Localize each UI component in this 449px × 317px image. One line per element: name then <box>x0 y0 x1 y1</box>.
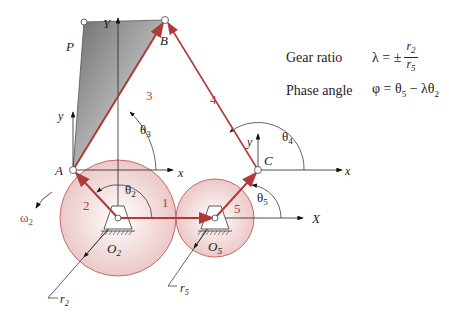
joint-c <box>255 167 262 174</box>
label-theta3: θ3 <box>140 122 151 139</box>
label-link-5: 5 <box>234 201 241 216</box>
gear-ratio-fraction: r2 r5 <box>404 40 417 76</box>
label-link-1: 1 <box>162 195 169 210</box>
phase-angle-label: Phase angle <box>286 78 372 104</box>
five-bar-linkage-diagram: P B A C O2 O5 Y X x y x y 1 2 3 4 5 θ3 θ… <box>0 0 449 317</box>
phase-angle-expr: φ = θ5 − λθ2 <box>372 76 439 107</box>
joint-o5 <box>212 215 218 221</box>
gear-ratio-row: Gear ratio λ = ± r2 r5 <box>286 40 439 76</box>
label-theta5: θ5 <box>257 190 268 207</box>
joint-a <box>70 167 77 174</box>
joint-o2 <box>115 215 121 221</box>
label-a: A <box>54 163 63 178</box>
omega2-arc <box>36 192 52 208</box>
gear-ratio-numerator-sub: 2 <box>411 45 416 55</box>
joint-b <box>162 17 169 24</box>
equations-legend: Gear ratio λ = ± r2 r5 Phase angle φ = θ… <box>286 40 439 107</box>
label-link-4: 4 <box>210 92 217 107</box>
label-local-x-a: x <box>177 166 184 180</box>
gear-ratio-label: Gear ratio <box>286 45 372 71</box>
label-local-y-a: y <box>57 109 64 123</box>
label-global-x: X <box>311 211 321 226</box>
label-p: P <box>65 39 74 54</box>
gear-ratio-lhs: λ = ± <box>372 45 401 71</box>
label-link-2: 2 <box>83 198 90 213</box>
label-omega2: ω2 <box>20 210 33 227</box>
theta3-arc <box>130 112 156 170</box>
joint-p <box>81 19 87 25</box>
gear-ratio-denominator-sub: 5 <box>411 64 416 74</box>
label-c: C <box>264 153 273 168</box>
label-r2: r2 <box>60 292 69 308</box>
label-r5: r5 <box>180 281 189 297</box>
label-theta4: θ4 <box>282 129 293 146</box>
label-local-x-c: x <box>344 164 351 178</box>
label-link-3: 3 <box>146 88 153 103</box>
label-local-y-c: y <box>246 135 253 149</box>
phase-angle-row: Phase angle φ = θ5 − λθ2 <box>286 76 439 107</box>
label-b: B <box>160 33 168 48</box>
